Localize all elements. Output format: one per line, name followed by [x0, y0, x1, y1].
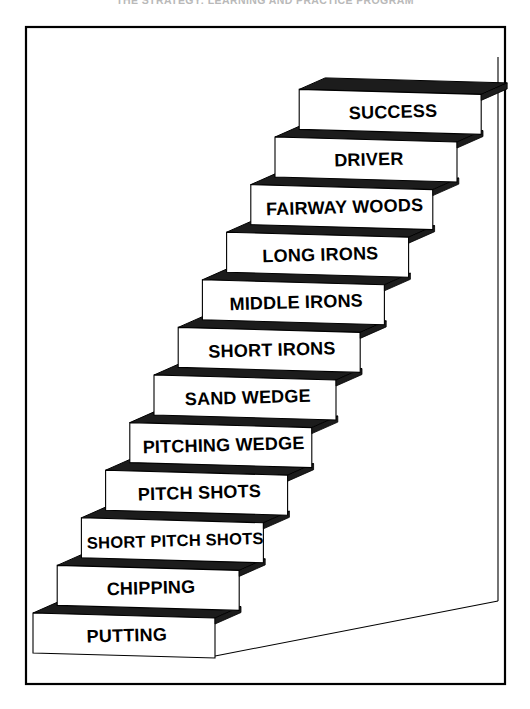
step-label: LONG IRONS	[262, 243, 379, 266]
step-label: MIDDLE IRONS	[229, 290, 363, 314]
step-label: SAND WEDGE	[185, 386, 312, 410]
step-label: SHORT IRONS	[208, 338, 336, 362]
step-label: PITCH SHOTS	[138, 481, 262, 504]
step-label: SUCCESS	[349, 101, 438, 123]
step-label: DRIVER	[334, 149, 404, 171]
staircase-diagram: PUTTINGCHIPPINGSHORT PITCH SHOTSPITCH SH…	[0, 0, 530, 709]
staircase-step: SUCCESS	[299, 78, 507, 134]
figure-page: THE STRATEGY: LEARNING AND PRACTICE PROG…	[0, 0, 530, 709]
step-label: PUTTING	[86, 624, 167, 646]
step-label: CHIPPING	[106, 577, 195, 599]
